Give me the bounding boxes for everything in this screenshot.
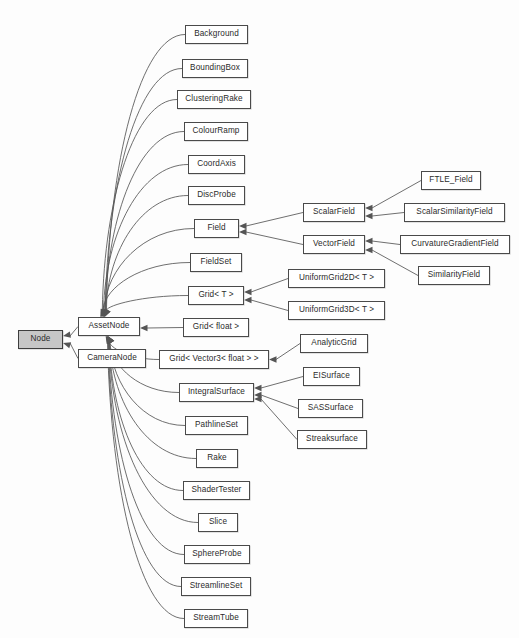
inheritance-arrowhead (365, 247, 373, 253)
class-box-slice[interactable]: Slice (198, 513, 238, 532)
class-box-label: FTLE_Field (429, 176, 472, 184)
inheritance-arrowhead (103, 309, 109, 317)
class-box-discprobe[interactable]: DiscProbe (188, 186, 245, 205)
class-box-label: SimilarityField (428, 271, 480, 279)
class-box-analyticgrid[interactable]: AnalyticGrid (300, 334, 368, 353)
inheritance-edge (105, 69, 182, 311)
inheritance-arrowhead (102, 309, 108, 317)
class-box-label: CoordAxis (197, 160, 236, 168)
inheritance-edge (104, 165, 189, 311)
class-box-label: Node (31, 335, 51, 343)
inheritance-arrowhead (105, 309, 111, 317)
class-box-gridfloat[interactable]: Grid< float > (183, 318, 249, 337)
class-box-label: ClusteringRake (185, 95, 242, 103)
inheritance-edge (147, 328, 183, 329)
inheritance-arrowhead (106, 336, 113, 344)
inheritance-edge (106, 196, 188, 311)
inheritance-arrowhead (106, 336, 113, 344)
inheritance-edge (108, 343, 181, 587)
inheritance-arrowhead (101, 309, 107, 317)
class-box-vectorfield[interactable]: VectorField (303, 235, 365, 254)
class-box-scalarfield[interactable]: ScalarField (303, 203, 365, 222)
class-box-sassurface[interactable]: SASSurface (298, 399, 363, 418)
class-box-similarityfield[interactable]: SimilarityField (418, 266, 490, 285)
class-box-label: DiscProbe (197, 191, 236, 199)
class-box-label: ShaderTester (192, 486, 242, 494)
inheritance-arrowhead (140, 325, 148, 331)
class-box-sphereprobe[interactable]: SphereProbe (184, 545, 250, 564)
class-box-label: FieldSet (201, 258, 232, 266)
inheritance-arrowhead (104, 309, 110, 317)
inheritance-edge (372, 241, 400, 245)
class-box-label: BoundingBox (190, 64, 240, 72)
class-box-gridvector3float[interactable]: Grid< Vector3< float > > (159, 350, 269, 369)
class-box-label: AssetNode (89, 322, 130, 330)
class-box-uniformgrid3d[interactable]: UniformGrid3D< T > (288, 301, 385, 320)
inheritance-edge (246, 213, 303, 227)
class-box-label: AnalyticGrid (311, 339, 356, 347)
inheritance-arrowhead (239, 229, 247, 235)
inheritance-arrowhead (100, 309, 106, 317)
class-box-gridt[interactable]: Grid< T > (188, 286, 244, 305)
inheritance-arrowhead (105, 309, 111, 317)
class-box-field[interactable]: Field (194, 219, 239, 238)
inheritance-edge (104, 229, 194, 311)
inheritance-arrowhead (108, 336, 115, 344)
class-box-cameranode[interactable]: CameraNode (78, 349, 146, 368)
class-box-node[interactable]: Node (18, 330, 63, 349)
inheritance-edge (261, 395, 298, 409)
inheritance-arrowhead (254, 385, 262, 391)
class-box-background[interactable]: Background (185, 25, 248, 44)
class-box-label: Field (207, 224, 225, 232)
class-box-label: Background (194, 30, 239, 38)
inheritance-edge (102, 100, 177, 311)
class-box-coordaxis[interactable]: CoordAxis (188, 155, 245, 174)
inheritance-arrowhead (244, 289, 252, 295)
class-box-integralsurface[interactable]: IntegralSurface (179, 383, 254, 402)
class-box-label: StreamTube (193, 614, 239, 622)
class-box-rake[interactable]: Rake (196, 449, 238, 468)
inheritance-edge (108, 343, 184, 619)
class-box-label: Grid< float > (193, 323, 239, 331)
class-box-label: StreamlineSet (190, 582, 243, 590)
class-box-label: PathlineSet (195, 421, 238, 429)
class-box-label: Grid< Vector3< float > > (169, 355, 258, 363)
inheritance-arrowhead (108, 336, 115, 344)
class-box-label: Rake (207, 454, 227, 462)
class-box-ftlefield[interactable]: FTLE_Field (421, 171, 481, 190)
class-box-label: UniformGrid3D< T > (299, 306, 374, 314)
inheritance-edge (261, 399, 297, 440)
class-box-label: Streaksurface (306, 435, 358, 443)
class-box-label: SphereProbe (192, 550, 241, 558)
class-box-label: Grid< T > (198, 291, 233, 299)
inheritance-edge (70, 343, 78, 359)
class-box-clusteringrake[interactable]: ClusteringRake (177, 90, 251, 109)
inheritance-edge (107, 35, 186, 311)
class-box-streamlineset[interactable]: StreamlineSet (181, 577, 251, 596)
inheritance-edge (261, 377, 303, 389)
class-box-assetnode[interactable]: AssetNode (78, 317, 140, 336)
class-box-streamtube[interactable]: StreamTube (184, 609, 248, 628)
class-box-colourramp[interactable]: ColourRamp (184, 122, 248, 141)
class-box-label: CameraNode (87, 354, 137, 362)
class-box-curvaturegradient[interactable]: CurvatureGradientField (400, 235, 510, 254)
class-box-label: UniformGrid2D< T > (299, 274, 374, 282)
class-box-shadertester[interactable]: ShaderTester (183, 481, 250, 500)
inheritance-arrowhead (269, 356, 277, 362)
inheritance-edge (251, 279, 288, 293)
class-box-label: IntegralSurface (188, 388, 245, 396)
inheritance-edge (103, 263, 190, 311)
inheritance-arrowhead (108, 336, 115, 344)
inheritance-edge (246, 232, 303, 245)
class-box-eisurface[interactable]: EISurface (303, 367, 360, 386)
inheritance-arrowhead (106, 336, 113, 344)
class-box-label: ScalarField (313, 208, 355, 216)
class-box-uniformgrid2d[interactable]: UniformGrid2D< T > (288, 269, 385, 288)
class-box-label: CurvatureGradientField (411, 240, 498, 248)
inheritance-arrowhead (108, 336, 115, 344)
class-box-pathlineset[interactable]: PathlineSet (185, 416, 248, 435)
class-box-boundingbox[interactable]: BoundingBox (182, 59, 248, 78)
class-box-scalarsimilarity[interactable]: ScalarSimilarityField (404, 203, 505, 222)
class-box-streaksurface[interactable]: Streaksurface (297, 430, 367, 449)
class-box-fieldset[interactable]: FieldSet (190, 253, 242, 272)
